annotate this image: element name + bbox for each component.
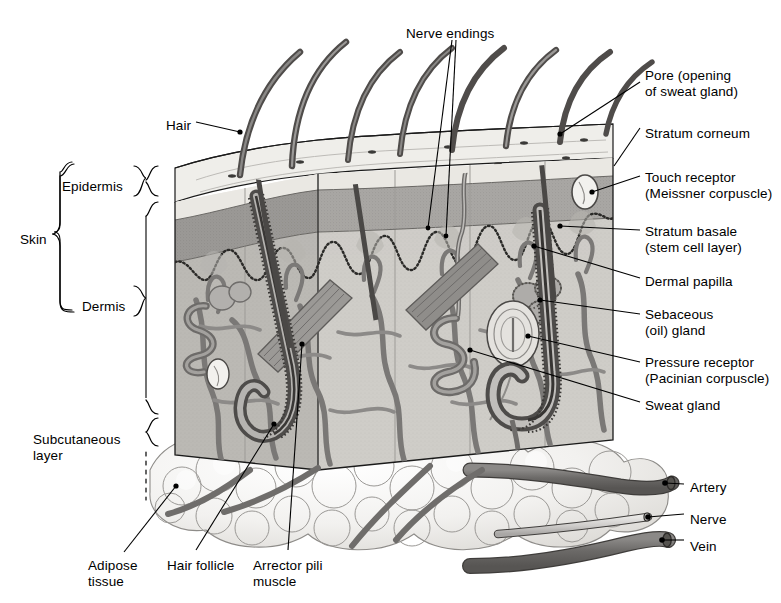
label-sebaceous-gland: Sebaceous (oil) gland — [645, 307, 713, 338]
label-arrector-pili-muscle: Arrector pili muscle — [253, 558, 323, 589]
label-adipose-tissue: Adipose tissue — [88, 558, 138, 589]
label-hair: Hair — [166, 118, 191, 134]
brace-epidermis — [134, 166, 146, 196]
label-nerve: Nerve — [690, 512, 727, 528]
brace-dermis — [134, 286, 146, 316]
label-nerve-endings: Nerve endings — [406, 26, 494, 42]
label-vein: Vein — [690, 539, 717, 555]
label-dermis: Dermis — [82, 299, 125, 315]
label-skin: Skin — [20, 232, 47, 248]
label-stratum-corneum: Stratum corneum — [645, 126, 750, 142]
label-sweat-gland: Sweat gland — [645, 398, 720, 414]
label-artery: Artery — [690, 480, 727, 496]
label-subcutaneous-layer: Subcutaneous layer — [33, 432, 121, 463]
label-touch-receptor: Touch receptor (Meissner corpuscle) — [645, 170, 772, 201]
skin-anatomy-diagram: Nerve endings Hair Pore (opening of swea… — [0, 0, 781, 603]
label-hair-follicle: Hair follicle — [167, 558, 234, 574]
label-pore: Pore (opening of sweat gland) — [645, 68, 738, 99]
brace-subcutaneous — [146, 418, 158, 446]
label-epidermis: Epidermis — [62, 179, 123, 195]
label-dermal-papilla: Dermal papilla — [645, 274, 733, 290]
label-pressure-receptor: Pressure receptor (Pacinian corpuscle) — [645, 355, 769, 386]
label-stratum-basale: Stratum basale (stem cell layer) — [645, 224, 742, 255]
